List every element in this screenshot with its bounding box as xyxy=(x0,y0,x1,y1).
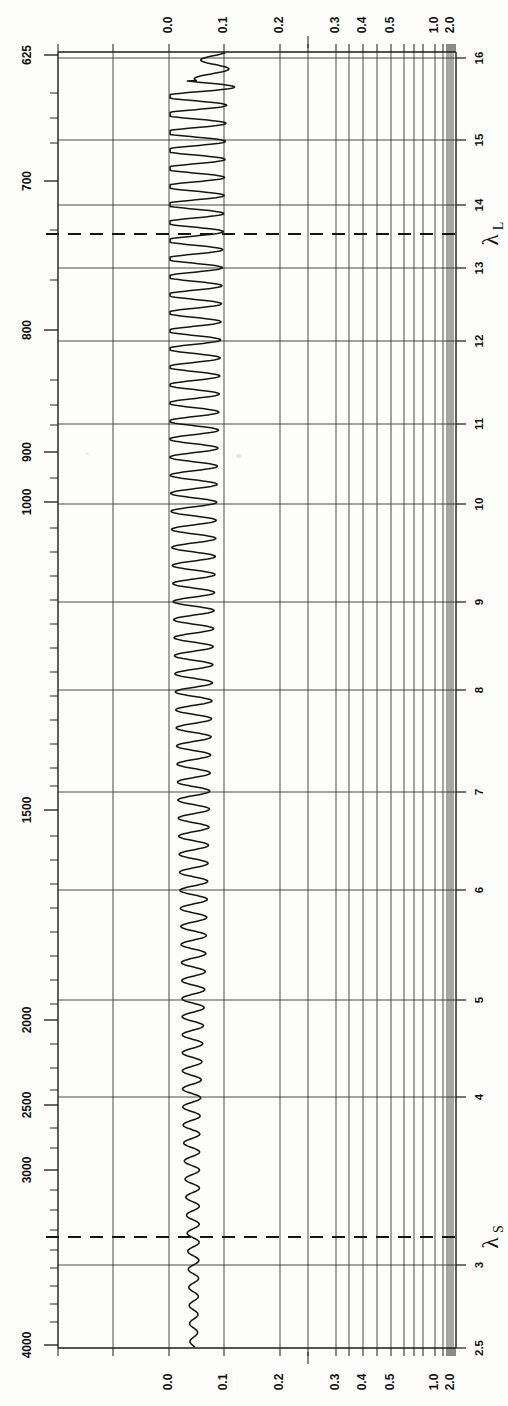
wavenumber-label-700: 700 xyxy=(20,171,34,191)
absorbance-label-bottom-0.0: 0.0 xyxy=(161,1373,175,1390)
absorbance-label-bottom-2.0: 2.0 xyxy=(443,1373,457,1390)
wavenumber-label-625: 625 xyxy=(20,45,34,65)
wavenumber-label-1500: 1500 xyxy=(20,796,34,823)
absorbance-label-bottom-1.0: 1.0 xyxy=(427,1373,441,1390)
spectrum-svg: 625700800900100015002000250030004000 0.0… xyxy=(0,0,508,1406)
absorbance-label-top-0.1: 0.1 xyxy=(216,16,230,33)
wavelength-label-6: 6 xyxy=(473,887,485,893)
wavelength-label-5: 5 xyxy=(473,996,485,1003)
absorbance-label-top-1.0: 1.0 xyxy=(427,16,441,33)
wavenumber-label-2500: 2500 xyxy=(20,1091,34,1118)
wavenumber-label-1000: 1000 xyxy=(20,488,34,515)
wavelength-label-9: 9 xyxy=(473,599,485,605)
wavenumber-label-4000: 4000 xyxy=(20,1331,34,1358)
absorbance-label-top-0.2: 0.2 xyxy=(272,16,286,33)
absorbance-label-top-2.0: 2.0 xyxy=(443,16,457,33)
lambda-subscript: S xyxy=(491,1225,506,1233)
lambda-subscript: L xyxy=(491,222,506,231)
wavenumber-label-900: 900 xyxy=(20,442,34,462)
wavelength-label-14: 14 xyxy=(473,198,485,211)
wavelength-label-2.5: 2.5 xyxy=(473,1339,485,1356)
absorbance-label-top-0.5: 0.5 xyxy=(383,16,397,33)
absorbance-label-bottom-0.5: 0.5 xyxy=(383,1373,397,1390)
absorbance-label-bottom-0.4: 0.4 xyxy=(355,1373,369,1390)
wavelength-label-3: 3 xyxy=(473,1262,485,1268)
wavelength-label-11: 11 xyxy=(473,417,485,430)
lambda-glyph: λ xyxy=(478,1237,503,1249)
absorbance-label-top-0.3: 0.3 xyxy=(328,16,342,33)
paper-background xyxy=(0,0,508,1406)
paper-speck xyxy=(86,452,89,455)
wavelength-label-13: 13 xyxy=(473,262,485,275)
absorbance-label-bottom-0.3: 0.3 xyxy=(328,1373,342,1390)
wavelength-label-15: 15 xyxy=(473,133,485,146)
paper-speck xyxy=(236,454,241,458)
wavelength-label-7: 7 xyxy=(473,789,485,795)
wavenumber-label-3000: 3000 xyxy=(20,1156,34,1183)
wavelength-label-12: 12 xyxy=(473,335,485,348)
wavelength-label-4: 4 xyxy=(473,1093,485,1100)
absorbance-label-bottom-0.2: 0.2 xyxy=(272,1373,286,1390)
wavenumber-label-800: 800 xyxy=(20,320,34,340)
wavelength-label-8: 8 xyxy=(473,686,485,693)
absorbance-label-top-0.4: 0.4 xyxy=(355,16,369,33)
spectrum-figure: 625700800900100015002000250030004000 0.0… xyxy=(0,0,508,1406)
wavelength-label-16: 16 xyxy=(473,52,485,65)
wavenumber-label-2000: 2000 xyxy=(20,1006,34,1033)
absorbance-label-bottom-0.1: 0.1 xyxy=(216,1373,230,1390)
wavelength-label-10: 10 xyxy=(473,498,485,511)
absorbance-label-top-0.0: 0.0 xyxy=(161,16,175,33)
lambda-glyph: λ xyxy=(478,234,503,246)
